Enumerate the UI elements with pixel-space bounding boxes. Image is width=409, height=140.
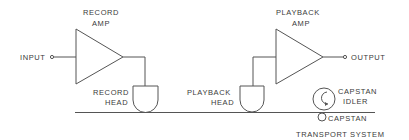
playback-amp-triangle-icon (276, 29, 323, 84)
record-amp-label-line2: AMP (92, 19, 110, 28)
record-head-label-line1: RECORD (93, 88, 129, 97)
record-amp: RECORD AMP (76, 8, 123, 84)
input-terminal-icon (50, 55, 53, 58)
rotation-arrow-icon (321, 92, 328, 104)
record-head: RECORD HEAD (93, 86, 158, 113)
playback-head: PLAYBACK HEAD (187, 86, 264, 112)
record-head-label-line2: HEAD (105, 98, 128, 107)
record-head-wire (123, 57, 145, 86)
capstan-idler-icon (313, 88, 335, 110)
playback-head-label-line1: PLAYBACK (187, 88, 231, 97)
playback-amp-label-line1: PLAYBACK (276, 8, 320, 17)
tape-recorder-diagram: RECORD AMP INPUT RECORD HEAD PLAYBACK HE… (0, 0, 409, 140)
playback-amp: PLAYBACK AMP (276, 8, 323, 84)
input-label: INPUT (20, 53, 46, 62)
playback-head-label-line2: HEAD (211, 98, 234, 107)
playback-head-wire (253, 57, 276, 86)
output-terminal: OUTPUT (323, 53, 385, 62)
capstan-idler-label-line1: CAPSTAN (338, 87, 377, 96)
capstan-icon (318, 113, 326, 121)
capstan: CAPSTAN (318, 113, 367, 123)
capstan-idler: CAPSTAN IDLER (313, 87, 377, 110)
capstan-idler-label-line2: IDLER (343, 97, 368, 106)
capstan-label: CAPSTAN (328, 114, 367, 123)
output-label: OUTPUT (351, 53, 385, 62)
record-amp-label-line1: RECORD (83, 8, 119, 17)
rotation-arrowhead-icon (325, 102, 328, 106)
input-terminal: INPUT (20, 53, 76, 62)
record-head-icon (133, 86, 158, 113)
playback-amp-label-line2: AMP (292, 19, 310, 28)
record-amp-triangle-icon (76, 29, 123, 84)
output-terminal-icon (343, 55, 346, 58)
playback-head-icon (240, 86, 264, 112)
transport-system-label: TRANSPORT SYSTEM (296, 130, 385, 139)
